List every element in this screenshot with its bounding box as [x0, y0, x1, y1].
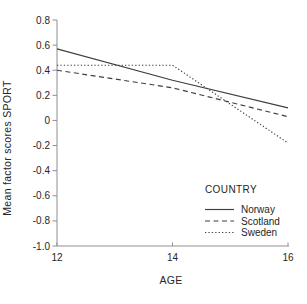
y-tick-label: 0.8: [36, 15, 50, 26]
series-line-norway: [57, 49, 288, 108]
y-tick-label: -0.4: [33, 165, 51, 176]
x-axis-title: AGE: [159, 274, 182, 286]
y-tick-label: 0.2: [36, 90, 50, 101]
y-tick-label: 0.4: [36, 65, 50, 76]
legend-label-scotland: Scotland: [241, 216, 280, 227]
y-tick-label: -1.0: [33, 241, 51, 252]
x-tick-label: 16: [282, 252, 294, 263]
legend-label-norway: Norway: [241, 204, 275, 215]
x-tick-label: 14: [167, 252, 179, 263]
legend-label-sweden: Sweden: [241, 227, 277, 238]
chart-figure: 0.80.60.40.20-0.2-0.4-0.6-0.8-1.0121416 …: [0, 0, 307, 304]
y-tick-label: -0.2: [33, 140, 51, 151]
legend: COUNTRY Norway Scotland Sweden: [205, 184, 280, 238]
y-tick-label: -0.8: [33, 215, 51, 226]
legend-title: COUNTRY: [205, 184, 257, 195]
y-tick-label: -0.6: [33, 190, 51, 201]
x-tick-label: 12: [51, 252, 63, 263]
y-tick-label: 0: [44, 115, 50, 126]
y-axis-title: Mean factor scores SPORT: [1, 80, 13, 216]
y-tick-label: 0.6: [36, 40, 50, 51]
series-line-sweden: [57, 65, 288, 143]
legend-line-samples: [205, 210, 234, 233]
series-line-scotland: [57, 70, 288, 116]
line-chart: 0.80.60.40.20-0.2-0.4-0.6-0.8-1.0121416 …: [0, 0, 307, 304]
data-series: [57, 49, 288, 143]
